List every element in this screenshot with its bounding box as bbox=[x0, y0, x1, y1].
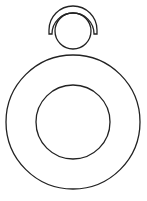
cap-arc-shape bbox=[49, 6, 97, 34]
outer-ring-circle-shape bbox=[6, 55, 140, 189]
diagram-canvas bbox=[0, 0, 147, 201]
head-circle-shape bbox=[55, 13, 91, 49]
diagram-svg bbox=[0, 0, 147, 201]
inner-ring-circle-shape bbox=[36, 85, 110, 159]
